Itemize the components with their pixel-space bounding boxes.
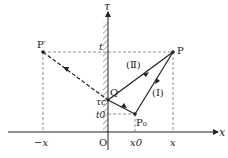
tick-label-tau-c: τc xyxy=(96,97,106,107)
tau-axis-label: τ xyxy=(104,0,111,13)
tick-label-neg-x: −x xyxy=(34,137,48,148)
path-label-II: (Ⅱ) xyxy=(126,59,141,70)
path-label-I: (Ⅰ) xyxy=(152,87,164,98)
point-P xyxy=(171,50,175,54)
reflected-path xyxy=(43,52,108,100)
spacetime-diagram: τ x O P P′ P₀ Q t τc t0 −x x0 x (Ⅱ) (Ⅰ) xyxy=(0,0,228,158)
label-Q: Q xyxy=(110,87,118,98)
tick-label-x: x xyxy=(170,137,176,148)
path-I-line xyxy=(135,52,173,114)
path-I-arrow xyxy=(155,78,160,84)
tick-label-t0: t0 xyxy=(96,110,106,120)
point-P-prime xyxy=(41,50,45,54)
label-P0: P₀ xyxy=(136,117,147,128)
label-P-prime: P′ xyxy=(37,39,47,50)
point-Q xyxy=(107,99,110,102)
tick-label-x0: x0 xyxy=(130,137,143,148)
x-axis-label: x xyxy=(219,126,226,139)
point-P0 xyxy=(133,112,137,116)
origin-label: O xyxy=(99,137,107,148)
label-P: P xyxy=(177,45,184,56)
